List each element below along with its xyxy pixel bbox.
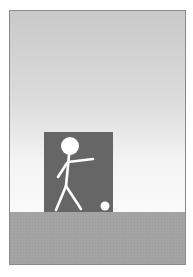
figure-head <box>61 137 79 155</box>
figure-leg-forward <box>66 186 81 209</box>
ball <box>101 202 110 211</box>
figure-arm-back <box>58 163 67 177</box>
figure-leg-back <box>56 186 66 210</box>
stick-figure-scene <box>10 11 186 265</box>
illustration-frame <box>9 10 186 265</box>
stick-figure <box>56 137 93 210</box>
figure-torso <box>66 155 69 186</box>
figure-arm-forward <box>68 159 93 162</box>
